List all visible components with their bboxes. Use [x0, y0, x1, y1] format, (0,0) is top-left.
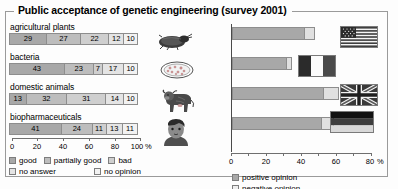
category-label: biopharmaceuticals — [9, 112, 155, 122]
axis-tick-label: 20 — [33, 142, 41, 151]
axis-tick-label: 40 — [59, 142, 67, 151]
legend-item-no-opinion: no opinion — [94, 167, 141, 177]
left-chart-row: agricultural plants 29 27 22 12 10 — [9, 22, 155, 45]
legend-swatch-positive-opinion — [232, 174, 239, 181]
left-chart-x-axis: 0 20 40 60 80 100 % — [9, 138, 155, 154]
segment-no-answer: 13 — [107, 124, 124, 134]
segment-no-opinion: 10 — [124, 94, 137, 104]
axis-unit-label: % — [377, 157, 384, 166]
legend-row: negative opinion — [232, 183, 307, 189]
flag-uk-icon — [340, 84, 378, 106]
figure-root: Public acceptance of genetic engineering… — [0, 0, 398, 189]
left-chart-row: domestic animals 13 32 31 14 10 — [9, 82, 155, 105]
legend-label: positive opinion — [242, 172, 297, 183]
category-label: domestic animals — [9, 82, 155, 92]
segment-good: 13 — [10, 94, 27, 104]
right-chart-x-axis: 0 20 40 60 80 % — [231, 153, 391, 169]
axis-tick — [248, 153, 249, 156]
axis-tick — [301, 153, 302, 156]
axis-tick-label: 0 — [229, 157, 233, 166]
bar-positive-opinion — [232, 87, 323, 100]
segment-good: 29 — [10, 34, 47, 44]
axis-tick-label: 60 — [332, 157, 340, 166]
axis-tick-label: 40 — [297, 157, 305, 166]
axis-tick-label: 80 — [111, 142, 119, 151]
legend-label: negative opinion — [242, 183, 300, 189]
segment-good: 43 — [10, 64, 65, 74]
axis-tick-label: 100 — [131, 142, 144, 151]
legend-item-negative-opinion: negative opinion — [232, 183, 300, 189]
bar-positive-opinion — [232, 27, 304, 40]
stacked-bar: 29 27 22 12 10 — [9, 33, 138, 45]
right-chart-legend: positive opinion negative opinion — [232, 172, 307, 189]
axis-tick-label: 20 — [262, 157, 270, 166]
segment-partially-good: 23 — [65, 64, 94, 74]
axis-line — [12, 138, 141, 139]
segment-partially-good: 27 — [47, 34, 81, 44]
flag-usa-icon — [340, 26, 378, 48]
bar-positive-opinion — [232, 117, 321, 130]
segment-no-opinion: 10 — [124, 34, 137, 44]
axis-tick — [266, 153, 267, 156]
axis-tick — [115, 138, 116, 141]
legend-item-positive-opinion: positive opinion — [232, 172, 297, 183]
right-chart-row — [232, 117, 334, 130]
legend-row: positive opinion — [232, 172, 307, 183]
axis-tick — [353, 153, 354, 156]
stacked-bar: 43 23 7 17 10 — [9, 63, 138, 75]
beetle-icon — [157, 32, 193, 54]
left-chart-row: bacteria 43 23 7 17 10 — [9, 52, 155, 75]
segment-bad: 11 — [93, 124, 107, 134]
axis-tick — [37, 138, 38, 141]
legend-swatch-good — [9, 157, 16, 164]
category-label: agricultural plants — [9, 22, 155, 32]
legend-item-good: good — [9, 156, 37, 166]
bar-positive-opinion — [232, 57, 286, 70]
legend-label: partially good — [54, 156, 102, 166]
flag-germany-icon — [330, 111, 374, 133]
axis-tick — [12, 138, 13, 141]
legend-label: bad — [118, 156, 131, 166]
legend-swatch-no-opinion — [94, 168, 101, 175]
bar-negative-opinion — [304, 27, 315, 40]
legend-label: no answer — [19, 167, 56, 177]
axis-tick-label: 80 — [366, 157, 374, 166]
segment-bad: 7 — [94, 64, 103, 74]
segment-bad: 22 — [81, 34, 109, 44]
axis-tick — [371, 153, 372, 156]
axis-tick — [140, 138, 141, 141]
axis-tick-label: 0 — [10, 142, 14, 151]
flag-france-icon — [298, 55, 336, 77]
segment-bad: 31 — [67, 94, 106, 104]
segment-partially-good: 32 — [27, 94, 68, 104]
segment-partially-good: 24 — [62, 124, 92, 134]
stacked-bar: 13 32 31 14 10 — [9, 93, 138, 105]
legend-swatch-partially-good — [44, 157, 51, 164]
figure-title: Public acceptance of genetic engineering… — [14, 4, 292, 17]
legend-swatch-negative-opinion — [232, 185, 239, 189]
right-chart-row — [232, 27, 315, 40]
legend-item-partially-good: partially good — [44, 156, 102, 166]
legend-row: good partially good bad — [9, 155, 189, 166]
segment-good: 41 — [10, 124, 62, 134]
right-chart-row — [232, 57, 292, 70]
axis-tick — [89, 138, 90, 141]
legend-item-no-answer: no answer — [9, 167, 87, 177]
axis-tick — [318, 153, 319, 156]
legend-label: good — [19, 156, 37, 166]
left-chart-row: biopharmaceuticals 41 24 11 13 11 — [9, 112, 155, 135]
bar-negative-opinion — [323, 87, 339, 100]
legend-row: no answer no opinion — [9, 166, 189, 177]
legend-item-bad: bad — [108, 156, 131, 166]
legend-swatch-bad — [108, 157, 115, 164]
segment-no-opinion: 11 — [123, 124, 137, 134]
category-label: bacteria — [9, 52, 155, 62]
axis-tick — [63, 138, 64, 141]
person-icon — [161, 118, 191, 150]
axis-tick-label: 60 — [85, 142, 93, 151]
legend-label: no opinion — [104, 167, 141, 177]
segment-no-answer: 14 — [106, 94, 124, 104]
axis-unit-label: % — [145, 142, 152, 151]
legend-swatch-no-answer — [9, 168, 16, 175]
left-chart-legend: good partially good bad no answer no opi… — [9, 155, 189, 177]
